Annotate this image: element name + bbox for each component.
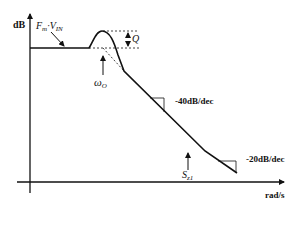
dc-gain-pointer-arrow: [51, 32, 64, 46]
dc-gain-v-sub: IN: [56, 25, 63, 33]
q-label: Q: [132, 34, 139, 44]
dc-gain-label: Fm·VIN: [36, 21, 63, 33]
slope-40-label: -40dB/dec: [175, 97, 214, 106]
omega-o-label: ωO: [94, 77, 107, 90]
asymptote-dashed: [103, 48, 124, 71]
omega-sub: O: [102, 82, 107, 90]
y-axis-label: dB: [13, 20, 25, 30]
slope-20-label: -20dB/dec: [246, 155, 285, 164]
omega-symbol: ω: [94, 76, 102, 88]
x-axis-label: rad/s: [265, 191, 285, 200]
sz1-label: Sz1: [182, 170, 193, 182]
slope-triangle-40: [150, 98, 164, 112]
sz1-sub: z1: [187, 174, 193, 182]
